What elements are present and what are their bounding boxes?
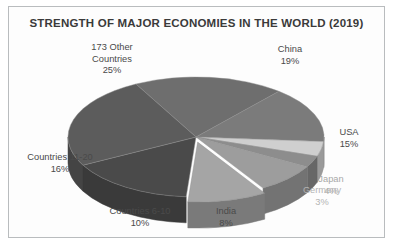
- chart-screenshot: STRENGTH OF MAJOR ECONOMIES IN THE WORLD…: [0, 0, 395, 247]
- chart-frame: STRENGTH OF MAJOR ECONOMIES IN THE WORLD…: [8, 6, 385, 238]
- pie-chart-3d: [9, 7, 384, 237]
